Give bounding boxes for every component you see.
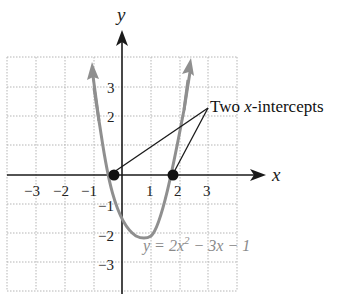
x-intercept-point-left: [109, 170, 120, 181]
axes: [7, 40, 258, 294]
svg-text:1: 1: [146, 183, 154, 199]
y-axis-label: y: [115, 4, 126, 25]
svg-text:−3: −3: [24, 183, 40, 199]
svg-text:−1: −1: [81, 183, 97, 199]
annotation-pointer-lines: [114, 108, 208, 172]
x-axis-label: x: [271, 164, 281, 185]
quadratic-graph: x y −3 −2 −1 1 2 3 3 2 −1 −2 −3 Two x-in…: [0, 0, 351, 294]
curve-right-arrow-icon: [182, 58, 194, 76]
svg-text:−2: −2: [98, 228, 114, 244]
svg-text:−1: −1: [98, 198, 114, 214]
two-x-intercepts-annotation: Two x-intercepts: [210, 97, 324, 116]
parabola: [99, 80, 188, 238]
x-tick-labels: −3 −2 −1 1 2 3: [24, 183, 211, 199]
svg-text:2: 2: [107, 109, 115, 125]
svg-text:2: 2: [174, 183, 182, 199]
svg-text:−3: −3: [98, 257, 114, 273]
equation-label: y = 2x2 − 3x − 1: [141, 234, 250, 255]
svg-text:3: 3: [107, 80, 115, 96]
x-intercept-point-right: [168, 170, 179, 181]
svg-text:3: 3: [203, 183, 211, 199]
svg-text:−2: −2: [53, 183, 69, 199]
